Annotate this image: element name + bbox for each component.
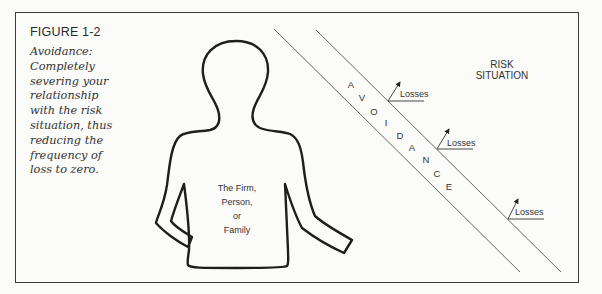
svg-text:V: V (359, 92, 366, 103)
person-label-line-2: Person, (221, 197, 252, 207)
svg-text:D: D (397, 130, 404, 141)
person-silhouette (156, 41, 352, 268)
person-label-line-1: The Firm, (218, 183, 257, 193)
svg-text:Losses: Losses (447, 138, 476, 148)
losses-marker-3: Losses (508, 199, 544, 219)
svg-text:Losses: Losses (515, 207, 544, 217)
risk-situation-line-1: RISK (490, 59, 514, 70)
svg-text:A: A (348, 79, 355, 90)
losses-marker-1: Losses (388, 82, 429, 101)
svg-text:N: N (423, 154, 430, 165)
svg-text:E: E (446, 181, 452, 192)
person-label-line-3: or (233, 211, 241, 221)
person-label-line-4: Family (224, 225, 251, 235)
losses-marker-2: Losses (437, 129, 476, 149)
loss-arrow-icon (388, 82, 400, 101)
barrier-line-right (316, 30, 561, 272)
svg-text:Losses: Losses (400, 89, 429, 99)
svg-text:C: C (434, 168, 441, 179)
risk-situation-line-2: SITUATION (476, 70, 529, 81)
avoidance-diagram: The Firm, Person, or Family A V O I D A … (0, 0, 602, 294)
svg-text:O: O (370, 106, 377, 117)
svg-text:A: A (409, 142, 416, 153)
svg-text:I: I (385, 117, 388, 128)
